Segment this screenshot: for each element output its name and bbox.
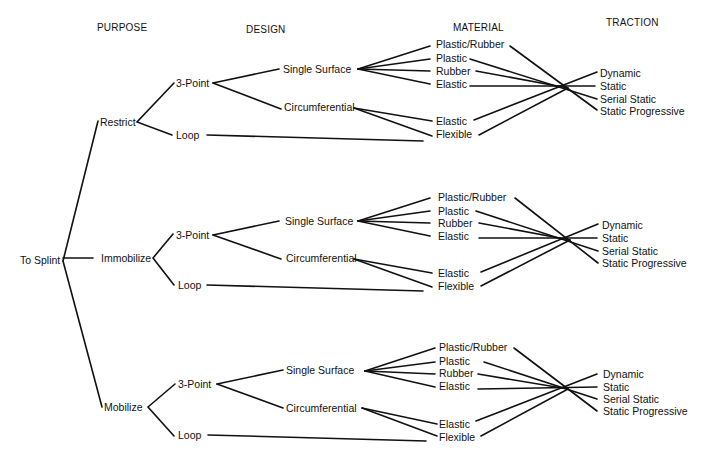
traction-node: Static Progressive xyxy=(602,257,687,269)
material-node: Elastic xyxy=(439,380,470,392)
material-node: Rubber xyxy=(436,65,470,77)
traction-node: Serial Static xyxy=(603,393,659,405)
header-design: DESIGN xyxy=(246,24,286,35)
material-node: Elastic xyxy=(436,78,467,90)
subdesign-node-single-surface: Single Surface xyxy=(285,215,353,227)
traction-node: Dynamic xyxy=(602,219,643,231)
traction-node: Dynamic xyxy=(600,67,641,79)
traction-node: Serial Static xyxy=(600,93,656,105)
material-node: Elastic xyxy=(436,115,467,127)
design-node-3point: 3-Point xyxy=(176,229,209,241)
traction-node: Static xyxy=(602,232,628,244)
subdesign-node-circumferential: Circumferential xyxy=(286,252,357,264)
material-node: Rubber xyxy=(439,367,473,379)
design-node-loop: Loop xyxy=(176,129,199,141)
subdesign-node-circumferential: Circumferential xyxy=(284,101,355,113)
purpose-node: Restrict xyxy=(100,116,136,128)
header-purpose: PURPOSE xyxy=(97,22,147,33)
material-node: Plastic/Rubber xyxy=(436,38,504,50)
material-node: Elastic xyxy=(439,418,470,430)
header-traction: TRACTION xyxy=(606,17,659,28)
purpose-node: Immobilize xyxy=(101,252,151,264)
subdesign-node-circumferential: Circumferential xyxy=(286,402,357,414)
material-node: Plastic/Rubber xyxy=(438,191,506,203)
traction-node: Serial Static xyxy=(602,245,658,257)
material-node: Elastic xyxy=(438,230,469,242)
traction-node: Static Progressive xyxy=(600,105,685,117)
purpose-node: Mobilize xyxy=(104,401,143,413)
material-node: Flexible xyxy=(438,280,474,292)
material-node: Flexible xyxy=(439,431,475,443)
section-mobilize-connectors xyxy=(148,348,597,441)
traction-node: Static xyxy=(603,381,629,393)
section-restrict-connectors xyxy=(137,46,597,141)
traction-node: Static xyxy=(600,80,626,92)
root-connectors xyxy=(63,121,102,407)
traction-node: Dynamic xyxy=(603,368,644,380)
header-material: MATERIAL xyxy=(453,22,504,33)
subdesign-node-single-surface: Single Surface xyxy=(286,364,354,376)
material-node: Flexible xyxy=(436,128,472,140)
material-node: Plastic xyxy=(439,355,470,367)
material-node: Rubber xyxy=(438,217,472,229)
material-node: Elastic xyxy=(438,267,469,279)
traction-node: Static Progressive xyxy=(603,405,688,417)
material-node: Plastic xyxy=(438,205,469,217)
subdesign-node-single-surface: Single Surface xyxy=(283,63,351,75)
material-node: Plastic/Rubber xyxy=(439,341,507,353)
root-node: To Splint xyxy=(20,254,60,266)
design-node-3point: 3-Point xyxy=(178,378,211,390)
design-node-3point: 3-Point xyxy=(176,77,209,89)
design-node-loop: Loop xyxy=(178,279,201,291)
section-immobilize-connectors xyxy=(153,198,598,291)
design-node-loop: Loop xyxy=(178,429,201,441)
material-node: Plastic xyxy=(436,52,467,64)
